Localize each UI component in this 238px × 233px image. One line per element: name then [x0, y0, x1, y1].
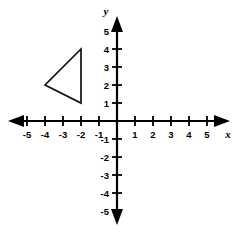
y-tick-label: -4: [101, 188, 110, 199]
x-tick-label: 3: [168, 129, 173, 140]
y-tick-label: 3: [104, 62, 109, 73]
x-axis-arrow-left-icon: [8, 115, 24, 127]
y-tick-label: 5: [104, 26, 110, 37]
x-tick-label: -5: [23, 129, 32, 140]
y-tick-label: -1: [101, 134, 110, 145]
y-tick-label: -2: [101, 152, 109, 163]
x-tick-label: 4: [186, 129, 192, 140]
x-tick-label: -3: [59, 129, 67, 140]
y-axis-arrow-up-icon: [111, 16, 123, 32]
y-tick-label: -5: [101, 206, 110, 217]
x-tick-label: 5: [204, 129, 210, 140]
x-axis-group: [8, 115, 230, 127]
x-axis-arrow-right-icon: [214, 115, 230, 127]
x-tick-label: 1: [132, 129, 138, 140]
x-axis-name-label: x: [224, 128, 231, 140]
plotted-shapes-layer: [45, 49, 81, 103]
x-tick-label: -4: [41, 129, 50, 140]
coordinate-plane-figure: -5-4-3-2-112345 54321-1-2-3-4-5 x y: [0, 0, 238, 233]
y-tick-label: 2: [104, 80, 109, 91]
y-axis-name-label: y: [102, 5, 109, 17]
coordinate-plane-svg: -5-4-3-2-112345 54321-1-2-3-4-5 x y: [0, 0, 238, 233]
y-tick-label: 4: [104, 44, 110, 55]
triangle: [45, 49, 81, 103]
x-tick-label: -2: [77, 129, 85, 140]
y-tick-label: -3: [101, 170, 109, 181]
y-tick-label: 1: [104, 98, 110, 109]
x-tick-label: 2: [150, 129, 155, 140]
